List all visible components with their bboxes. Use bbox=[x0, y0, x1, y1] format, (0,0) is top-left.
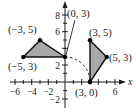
point-0-3 bbox=[63, 55, 67, 59]
x-tick-label: −4 bbox=[27, 87, 37, 97]
point-3-0 bbox=[88, 80, 93, 85]
right-triangle bbox=[90, 40, 107, 82]
x-axis-arrow-icon bbox=[119, 80, 126, 85]
point-m3-5 bbox=[38, 38, 42, 42]
point-3-5 bbox=[88, 38, 92, 42]
label-m3-5: (−3, 5) bbox=[8, 24, 37, 36]
label-5-3: (5, 3) bbox=[109, 52, 132, 64]
label-0-3: (0, 3) bbox=[67, 8, 90, 20]
y-tick-label: −2 bbox=[50, 95, 60, 105]
label-m5-3: (−5, 3) bbox=[8, 61, 37, 73]
y-tick-label: 2 bbox=[55, 61, 60, 71]
point-m5-3 bbox=[21, 55, 25, 59]
x-tick-label: −6 bbox=[10, 87, 20, 97]
label-3-5: (3, 5) bbox=[89, 27, 112, 39]
left-triangle bbox=[23, 40, 65, 57]
label-leader-line bbox=[66, 20, 75, 55]
y-tick-label: 8 bbox=[55, 11, 60, 21]
x-axis-label: x bbox=[127, 76, 133, 87]
y-axis-arrow-icon bbox=[63, 1, 68, 8]
x-tick-label: 6 bbox=[113, 87, 118, 97]
label-3-0: (3, 0) bbox=[75, 87, 98, 99]
y-tick-label: 6 bbox=[55, 27, 60, 37]
rotation-arc bbox=[65, 57, 90, 82]
coordinate-plane: −6 −4 −2 6 8 6 2 −2 x (−3, 5) (−5, 3) (0… bbox=[0, 0, 136, 112]
